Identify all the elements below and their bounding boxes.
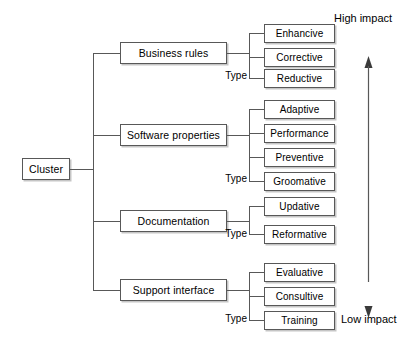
node-support-interface[interactable]: Support interface [120, 279, 227, 301]
impact-axis [357, 28, 381, 318]
fan-vertical-software-properties [249, 109, 250, 181]
node-groomative-label: Groomative [273, 177, 326, 187]
edge-trunk-to-support-interface [93, 290, 120, 291]
edge-fan-to-evaluative [249, 272, 264, 273]
edge-fan-to-performance [249, 133, 264, 134]
node-software-properties[interactable]: Software properties [120, 124, 227, 146]
node-reformative-label: Reformative [272, 230, 327, 240]
edge-fan-to-adaptive [249, 109, 264, 110]
node-consultive[interactable]: Consultive [264, 287, 335, 306]
fan-vertical-business-rules [249, 33, 250, 78]
node-business-rules[interactable]: Business rules [120, 42, 227, 64]
node-adaptive[interactable]: Adaptive [264, 100, 335, 119]
node-reductive[interactable]: Reductive [264, 69, 335, 88]
node-consultive-label: Consultive [276, 292, 324, 302]
edge-documentation-to-fan [227, 221, 249, 222]
node-documentation-label: Documentation [138, 216, 210, 227]
node-updative-label: Updative [279, 202, 319, 212]
type-label-support-interface: Type [205, 313, 247, 324]
edge-cluster-to-trunk [70, 169, 93, 170]
edge-trunk-to-documentation [93, 221, 120, 222]
node-training-label: Training [281, 316, 318, 326]
edge-fan-to-reductive [249, 78, 264, 79]
node-training[interactable]: Training [264, 311, 335, 330]
node-evaluative[interactable]: Evaluative [264, 263, 335, 282]
trunk-vertical [93, 53, 94, 291]
type-label-documentation: Type [205, 228, 247, 239]
node-groomative[interactable]: Groomative [264, 172, 335, 191]
node-corrective-label: Corrective [276, 53, 323, 63]
node-preventive[interactable]: Preventive [264, 148, 335, 167]
edge-fan-to-enhancive [249, 33, 264, 34]
high-impact-label: High impact [334, 12, 392, 24]
edge-support-interface-to-fan [227, 290, 249, 291]
node-performance[interactable]: Performance [264, 124, 335, 143]
node-performance-label: Performance [270, 129, 328, 139]
node-cluster-label: Cluster [29, 164, 63, 175]
node-evaluative-label: Evaluative [276, 268, 323, 278]
edge-fan-to-groomative [249, 181, 264, 182]
edge-fan-to-consultive [249, 296, 264, 297]
node-cluster[interactable]: Cluster [22, 158, 70, 180]
node-enhancive[interactable]: Enhancive [264, 24, 335, 43]
edge-fan-to-reformative [249, 234, 264, 235]
edge-fan-to-corrective [249, 57, 264, 58]
node-updative[interactable]: Updative [264, 197, 335, 216]
node-enhancive-label: Enhancive [276, 29, 324, 39]
node-software-properties-label: Software properties [127, 130, 220, 141]
node-corrective[interactable]: Corrective [264, 48, 335, 67]
fan-vertical-documentation [249, 206, 250, 235]
node-adaptive-label: Adaptive [280, 105, 320, 115]
node-support-interface-label: Support interface [133, 285, 215, 296]
edge-fan-to-training [249, 320, 264, 321]
type-label-business-rules: Type [205, 70, 247, 81]
node-preventive-label: Preventive [275, 153, 323, 163]
edge-software-properties-to-fan [227, 135, 249, 136]
edge-fan-to-updative [249, 206, 264, 207]
low-impact-label: Low impact [341, 313, 397, 325]
edge-trunk-to-business-rules [93, 53, 120, 54]
node-business-rules-label: Business rules [139, 48, 209, 59]
edge-business-rules-to-fan [227, 53, 249, 54]
diagram-canvas: Cluster Business rules Type Enhancive Co… [0, 0, 416, 340]
node-reductive-label: Reductive [277, 74, 322, 84]
type-label-software-properties: Type [205, 173, 247, 184]
edge-fan-to-preventive [249, 157, 264, 158]
node-reformative[interactable]: Reformative [264, 225, 335, 244]
edge-trunk-to-software-properties [93, 135, 120, 136]
